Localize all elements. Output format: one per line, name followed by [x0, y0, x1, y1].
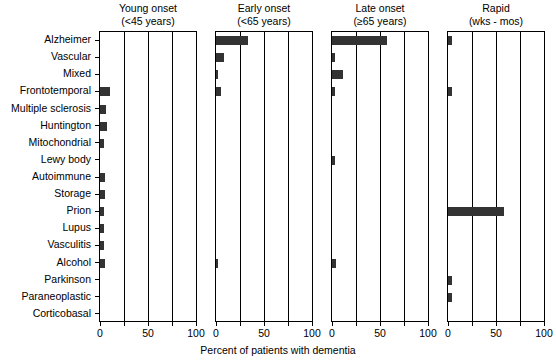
bar-early-onset-vascular	[216, 53, 224, 62]
x-tick-mark-50	[380, 322, 381, 326]
gridline-50	[264, 32, 265, 321]
panel-title-line1: Late onset	[331, 2, 429, 15]
y-tick-mark	[95, 177, 99, 178]
y-tick-mark	[95, 262, 99, 263]
category-label-storage: Storage	[54, 187, 91, 200]
panel-title-line2: (<65 years)	[215, 15, 313, 28]
bar-late-onset-mixed	[332, 70, 343, 79]
y-tick-mark	[95, 228, 99, 229]
x-tick-label-0: 0	[80, 328, 120, 339]
gridline-50	[496, 32, 497, 321]
gridline-50	[148, 32, 149, 321]
x-tick-label-0: 0	[428, 328, 468, 339]
plot-panel-rapid	[447, 31, 545, 322]
y-tick-mark	[95, 159, 99, 160]
y-tick-mark	[95, 245, 99, 246]
panel-title-line1: Early onset	[215, 2, 313, 15]
bar-rapid-prion	[448, 207, 504, 216]
bar-late-onset-lewy-body	[332, 156, 335, 165]
gridline-50	[380, 32, 381, 321]
x-tick-mark-25	[356, 322, 357, 326]
category-label-prion: Prion	[66, 204, 91, 217]
bar-early-onset-mixed	[216, 70, 218, 79]
category-label-vasculitis: Vasculitis	[47, 238, 91, 251]
x-tick-mark-0	[216, 322, 217, 326]
category-label-multiple-sclerosis: Multiple sclerosis	[11, 102, 91, 115]
panel-title-young-onset: Young onset(<45 years)	[99, 2, 197, 27]
panel-title-line2: (<45 years)	[99, 15, 197, 28]
category-label-frontotemporal: Frontotemporal	[20, 84, 91, 97]
bar-late-onset-vascular	[332, 53, 335, 62]
plot-panel-early-onset	[215, 31, 313, 322]
bar-late-onset-frontotemporal	[332, 87, 335, 96]
bar-young-onset-mitochondrial	[100, 139, 104, 148]
gridline-25	[472, 32, 473, 321]
x-tick-mark-75	[520, 322, 521, 326]
gridline-75	[520, 32, 521, 321]
panel-title-line1: Rapid	[447, 2, 545, 15]
x-tick-mark-0	[448, 322, 449, 326]
gridline-25	[124, 32, 125, 321]
x-tick-mark-100	[196, 322, 197, 326]
panel-title-line1: Young onset	[99, 2, 197, 15]
bar-young-onset-frontotemporal	[100, 87, 110, 96]
category-label-corticobasal: Corticobasal	[33, 307, 91, 320]
x-tick-mark-25	[240, 322, 241, 326]
panel-title-line2: (wks - mos)	[447, 15, 545, 28]
dementia-etiology-bar-chart-figure: AlzheimerVascularMixedFrontotemporalMult…	[0, 0, 556, 361]
category-label-lupus: Lupus	[62, 221, 91, 234]
bar-young-onset-alcohol	[100, 259, 105, 268]
bar-early-onset-alcohol	[216, 259, 218, 268]
gridline-25	[356, 32, 357, 321]
gridline-75	[404, 32, 405, 321]
y-tick-mark	[95, 313, 99, 314]
bar-rapid-paraneoplastic	[448, 293, 452, 302]
y-tick-mark	[95, 125, 99, 126]
bar-late-onset-alzheimer	[332, 36, 387, 45]
y-tick-mark	[95, 91, 99, 92]
gridline-75	[288, 32, 289, 321]
category-label-mixed: Mixed	[63, 67, 91, 80]
gridline-25	[240, 32, 241, 321]
y-tick-mark	[95, 108, 99, 109]
panel-title-line2: (≥65 years)	[331, 15, 429, 28]
category-label-lewy-body: Lewy body	[41, 153, 91, 166]
category-label-autoimmune: Autoimmune	[32, 170, 91, 183]
x-tick-mark-50	[496, 322, 497, 326]
bar-young-onset-autoimmune	[100, 173, 105, 182]
x-tick-label-0: 0	[196, 328, 236, 339]
x-tick-mark-50	[148, 322, 149, 326]
plot-panel-late-onset	[331, 31, 429, 322]
x-axis-title: Percent of patients with dementia	[0, 344, 556, 356]
bar-young-onset-storage	[100, 190, 105, 199]
x-tick-label-50: 50	[128, 328, 168, 339]
y-tick-mark	[95, 211, 99, 212]
y-tick-mark	[95, 40, 99, 41]
panel-title-early-onset: Early onset(<65 years)	[215, 2, 313, 27]
x-tick-label-100: 100	[524, 328, 556, 339]
y-tick-mark	[95, 296, 99, 297]
x-tick-mark-25	[472, 322, 473, 326]
category-label-parkinson: Parkinson	[44, 273, 91, 286]
x-tick-mark-0	[100, 322, 101, 326]
bar-rapid-parkinson	[448, 276, 452, 285]
bar-young-onset-vasculitis	[100, 241, 104, 250]
x-tick-label-0: 0	[312, 328, 352, 339]
bar-late-onset-alcohol	[332, 259, 336, 268]
x-tick-mark-0	[332, 322, 333, 326]
x-tick-mark-100	[312, 322, 313, 326]
x-tick-mark-25	[124, 322, 125, 326]
x-tick-mark-75	[404, 322, 405, 326]
category-axis: AlzheimerVascularMixedFrontotemporalMult…	[0, 31, 96, 322]
category-label-huntington: Huntington	[40, 119, 91, 132]
category-label-mitochondrial: Mitochondrial	[29, 136, 91, 149]
y-tick-mark	[95, 57, 99, 58]
bar-young-onset-lupus	[100, 224, 104, 233]
plot-panel-young-onset	[99, 31, 197, 322]
x-tick-mark-75	[172, 322, 173, 326]
x-tick-mark-100	[544, 322, 545, 326]
x-tick-label-50: 50	[360, 328, 400, 339]
x-tick-label-50: 50	[476, 328, 516, 339]
category-label-alzheimer: Alzheimer	[44, 33, 91, 46]
y-tick-mark	[95, 142, 99, 143]
